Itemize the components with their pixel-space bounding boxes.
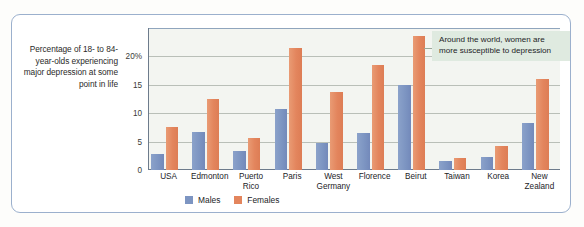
y-axis-tick-label: 15 <box>102 80 142 89</box>
y-axis-tick-label: 20% <box>102 52 142 61</box>
bar-females <box>536 79 549 170</box>
bar-males <box>357 133 370 170</box>
bar-group <box>354 28 395 170</box>
bar-females <box>372 65 385 170</box>
bar-females <box>413 36 426 170</box>
bar-females <box>166 127 179 170</box>
bar-group <box>148 28 189 170</box>
bar-males <box>398 85 411 170</box>
bar-males <box>275 109 288 170</box>
bar-females <box>289 48 302 170</box>
bar-females <box>330 92 343 170</box>
bar-males <box>316 143 329 170</box>
legend-label: Males <box>198 195 220 205</box>
legend-item: Males <box>185 195 220 205</box>
y-axis-tick-label: 0 <box>102 166 142 175</box>
y-axis-tick-label: 5 <box>102 137 142 146</box>
bar-males <box>151 154 164 170</box>
chart-annotation-callout: Around the world, women are more suscept… <box>432 31 570 61</box>
bar-group <box>395 28 436 170</box>
figure-bar-chart-depression: Percentage of 18- to 84-year-olds experi… <box>0 0 584 227</box>
y-axis-tick-label: 10 <box>102 109 142 118</box>
legend-label: Females <box>247 195 279 205</box>
bar-group <box>313 28 354 170</box>
chart-legend: MalesFemales <box>185 195 279 205</box>
bar-females <box>454 158 467 170</box>
bar-group <box>272 28 313 170</box>
bar-group <box>189 28 230 170</box>
bar-males <box>522 123 535 170</box>
x-axis-label: New Zealand <box>513 172 566 193</box>
bar-females <box>207 99 220 170</box>
legend-item: Females <box>234 195 279 205</box>
bar-males <box>192 132 205 170</box>
legend-swatch-icon <box>234 196 242 204</box>
bar-females <box>495 146 508 170</box>
bar-males <box>439 161 452 170</box>
legend-swatch-icon <box>185 196 193 204</box>
bar-group <box>230 28 271 170</box>
bar-males <box>481 157 494 170</box>
bar-males <box>233 151 246 170</box>
bar-females <box>248 138 261 170</box>
